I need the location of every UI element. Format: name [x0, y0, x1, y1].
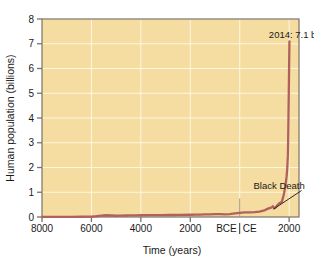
population-2014-annotation: 2014: 7.1 billion	[269, 29, 314, 40]
y-axis-tick-label: 7	[28, 38, 34, 49]
x-axis: 8000600040002000BCECE2000	[31, 217, 301, 234]
x-axis-title: Time (years)	[143, 244, 202, 256]
y-axis-tick-label: 8	[28, 14, 34, 25]
population-chart: 012345678 8000600040002000BCECE2000 2014…	[0, 0, 314, 263]
y-axis-tick-label: 5	[28, 88, 34, 99]
x-axis-label-bce: BCE	[216, 223, 237, 234]
y-axis-title: Human population (billions)	[4, 54, 16, 181]
y-axis-tick-label: 3	[28, 137, 34, 148]
y-axis-tick-label: 6	[28, 63, 34, 74]
x-axis-tick-label: 4000	[130, 223, 153, 234]
x-axis-tick-label: 8000	[31, 223, 54, 234]
y-axis: 012345678	[28, 14, 42, 223]
y-axis-tick-label: 4	[28, 113, 34, 124]
black-death-annotation: Black Death	[254, 180, 305, 191]
x-axis-tick-label: 2000	[278, 223, 301, 234]
y-axis-tick-label: 2	[28, 162, 34, 173]
y-axis-tick-label: 1	[28, 187, 34, 198]
x-axis-tick-label: 2000	[179, 223, 202, 234]
y-axis-tick-label: 0	[28, 212, 34, 223]
x-axis-label-ce: CE	[243, 223, 257, 234]
figure-container: 012345678 8000600040002000BCECE2000 2014…	[0, 0, 314, 263]
x-axis-tick-label: 6000	[80, 223, 103, 234]
